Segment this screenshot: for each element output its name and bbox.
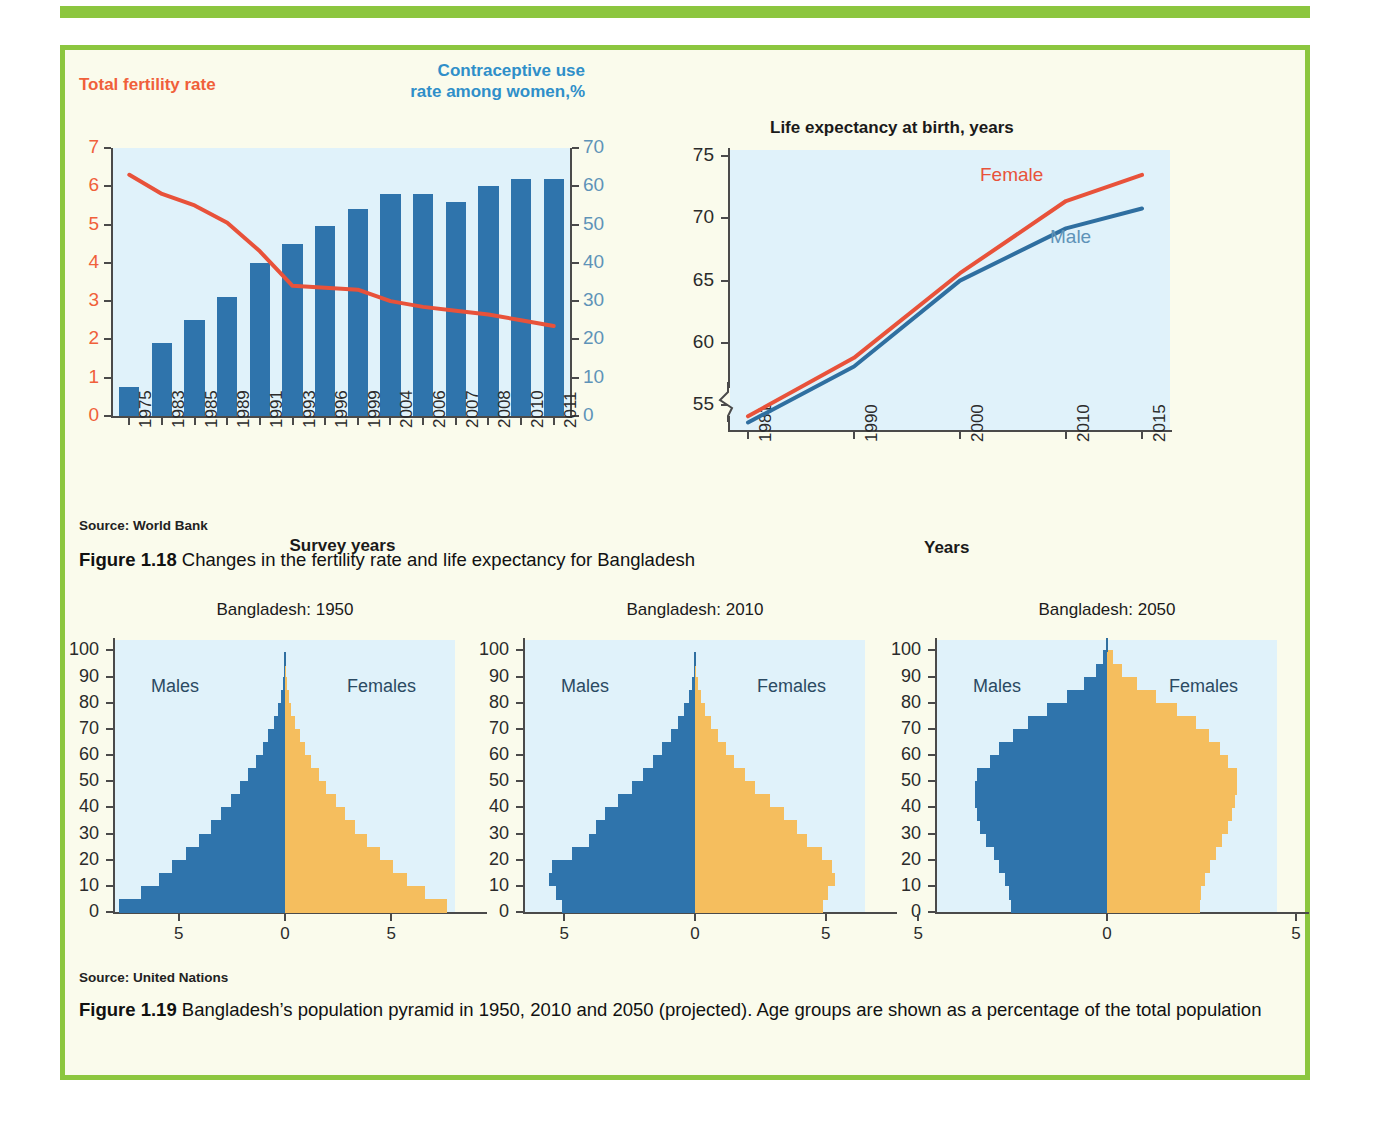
fertility-bar — [348, 209, 368, 416]
figure-118-text: Changes in the fertility rate and life e… — [177, 549, 695, 570]
pyramid-bar-female — [285, 886, 425, 900]
pyramid-ytick — [928, 833, 935, 835]
pyramid-xlabel: 0 — [1097, 924, 1117, 944]
fertility-ytick-right — [572, 262, 579, 264]
pyramid-bar-male — [549, 873, 695, 887]
fertility-xtick — [389, 418, 391, 425]
pyramid-ytick — [928, 702, 935, 704]
fertility-ytick-left — [104, 185, 111, 187]
pyramid-ylabel: 0 — [887, 901, 921, 922]
pyramid-bar-female — [285, 847, 380, 861]
pyramid-bar-male — [199, 834, 285, 848]
pyramid-xtick — [694, 914, 696, 921]
fertility-xtick — [161, 418, 163, 425]
fertility-ytick-left — [104, 377, 111, 379]
pyramid-bar-male — [119, 899, 285, 913]
figure-119-text: Bangladesh’s population pyramid in 1950,… — [177, 999, 1262, 1020]
pyramid-ytick — [106, 780, 113, 782]
pyramid-xtick — [917, 914, 919, 921]
fertility-ytick-left — [104, 415, 111, 417]
fertility-xlabel: 1991 — [267, 390, 287, 428]
fertility-xtick — [553, 418, 555, 425]
axis-break-icon — [718, 382, 738, 422]
pyramid-bar-female — [285, 873, 407, 887]
pyramid-bar-male — [1013, 729, 1107, 743]
fertility-ytick-right — [572, 377, 579, 379]
pyramid-ylabel: 60 — [887, 744, 921, 765]
pyramid-xtick — [825, 914, 827, 921]
pyramid-ylabel: 80 — [887, 692, 921, 713]
fertility-ytick-left — [104, 224, 111, 226]
pyramid-ylabel: 60 — [65, 744, 99, 765]
pyramid-ylabel: 40 — [887, 796, 921, 817]
life-ytick — [721, 342, 728, 344]
pyramid-bar-male — [980, 820, 1107, 834]
life-xlabel: 1990 — [862, 404, 882, 442]
pyramid-title: Bangladesh: 2010 — [485, 600, 905, 620]
pyramid-ytick — [928, 754, 935, 756]
pyramid-xtick — [1295, 914, 1297, 921]
pyramid-bar-male — [1067, 690, 1107, 704]
pyramid-xtick — [178, 914, 180, 921]
pyramid-ytick — [516, 676, 523, 678]
pyramid-bar-female — [1107, 834, 1222, 848]
pyramid-ylabel: 100 — [887, 639, 921, 660]
fertility-xlabel: 2010 — [528, 390, 548, 428]
pyramid-ytick — [516, 728, 523, 730]
pyramid-xtick — [390, 914, 392, 921]
pyramid-bar-female — [285, 664, 286, 678]
fertility-ylabel-left: 3 — [77, 289, 99, 311]
pyramid-ytick — [106, 728, 113, 730]
pyramid-bar-male — [159, 873, 285, 887]
fertility-ylabel-right: 0 — [583, 404, 613, 426]
pyramid-bar-female — [1107, 703, 1177, 717]
fertility-ytick-left — [104, 300, 111, 302]
fertility-xtick — [455, 418, 457, 425]
fertility-xlabel: 1993 — [300, 390, 320, 428]
pyramid-bar-female — [695, 755, 734, 769]
pyramid-y-axis — [523, 638, 525, 912]
pyramid-bar-male — [1009, 886, 1107, 900]
pyramid-label-females: Females — [1169, 676, 1238, 697]
pyramid-y-axis — [935, 638, 937, 912]
pyramid-bar-female — [285, 820, 355, 834]
pyramid-xlabel: 5 — [381, 924, 401, 944]
life-xlabel: 2015 — [1150, 404, 1170, 442]
pyramid-bar-female — [1107, 650, 1113, 664]
pyramid-bar-male — [596, 820, 695, 834]
pyramid-bar-male — [240, 781, 285, 795]
pyramid-bar-female — [695, 781, 755, 795]
pyramid-bar-female — [285, 729, 300, 743]
pyramid-xlabel: 5 — [169, 924, 189, 944]
fertility-ylabel-left: 4 — [77, 251, 99, 273]
pyramid-ylabel: 80 — [475, 692, 509, 713]
pyramid-ylabel: 0 — [65, 901, 99, 922]
pyramid-ylabel: 80 — [65, 692, 99, 713]
pyramid-xlabel: 5 — [816, 924, 836, 944]
pyramid-ytick — [106, 859, 113, 861]
fertility-xtick — [194, 418, 196, 425]
pyramid-bar-male — [263, 742, 285, 756]
pyramid-bar-female — [1107, 807, 1232, 821]
pyramid-bar-female — [695, 768, 745, 782]
pyramid-ytick — [106, 649, 113, 651]
fertility-ylabel-left: 0 — [77, 404, 99, 426]
pyramid-bar-female — [285, 781, 326, 795]
fertility-xlabel: 2008 — [495, 390, 515, 428]
fertility-bar — [380, 194, 400, 416]
fertility-xtick — [422, 418, 424, 425]
pyramid-bar-female — [1107, 729, 1209, 743]
pyramid-ytick — [928, 649, 935, 651]
pyramid-bar-female — [1107, 690, 1156, 704]
fertility-bar — [315, 226, 335, 416]
pyramid-bar-female — [695, 860, 832, 874]
figure-panel: Total fertility rate Contraceptive use r… — [60, 45, 1310, 1080]
pyramid-y-axis — [113, 638, 115, 912]
pyramid-ylabel: 90 — [887, 666, 921, 687]
fertility-xtick — [487, 418, 489, 425]
page-top-rule — [60, 6, 1310, 18]
fertility-bar — [413, 194, 433, 416]
pyramid-ytick — [928, 728, 935, 730]
pyramid-center-spike — [284, 652, 286, 666]
fertility-ylabel-right: 50 — [583, 213, 613, 235]
